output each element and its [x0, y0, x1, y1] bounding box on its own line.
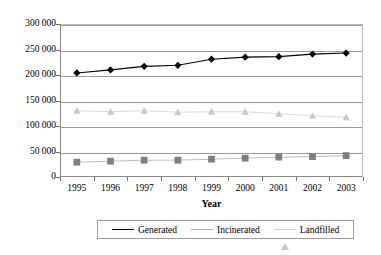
y-axis-tick-mark: [56, 126, 60, 127]
y-axis-tick-mark: [56, 75, 60, 76]
chart-container: 300 000 250 000 200 000 150 000 100 000 …: [0, 0, 381, 255]
legend-key-generated: [112, 225, 134, 235]
legend-item-generated[interactable]: Generated: [112, 225, 177, 235]
x-axis-tick-label: 2003: [326, 183, 366, 194]
gridline-200000: [61, 76, 362, 77]
x-axis-tick-mark: [329, 177, 330, 181]
gridline-150000: [61, 102, 362, 103]
legend-item-landfilled[interactable]: Landfilled: [274, 225, 340, 235]
y-axis-tick-mark: [56, 24, 60, 25]
y-axis-tick-label: 50 000: [0, 147, 56, 157]
x-axis-tick-mark: [363, 177, 364, 181]
legend-label-incinerated: Incinerated: [217, 225, 260, 235]
triangle-icon: [281, 226, 289, 244]
legend-label-landfilled: Landfilled: [300, 225, 340, 235]
x-axis-tick-mark: [228, 177, 229, 181]
chart-legend: Generated Incinerated Landfilled: [97, 220, 354, 239]
x-axis-tick-mark: [60, 177, 61, 181]
y-axis-tick-mark: [56, 50, 60, 51]
x-axis-tick-mark: [127, 177, 128, 181]
x-axis-title: Year: [60, 198, 363, 210]
plot-area: [60, 24, 363, 177]
y-axis-tick-label: 0: [0, 172, 56, 182]
gridline-100000: [61, 127, 362, 128]
x-axis-tick-mark: [195, 177, 196, 181]
y-axis-tick-mark: [56, 152, 60, 153]
x-axis-tick-mark: [296, 177, 297, 181]
y-axis-tick-label: 150 000: [0, 96, 56, 106]
legend-key-landfilled: [274, 225, 296, 235]
legend-label-generated: Generated: [138, 225, 177, 235]
legend-item-incinerated[interactable]: Incinerated: [191, 225, 260, 235]
x-axis-tick-mark: [161, 177, 162, 181]
gridline-50000: [61, 153, 362, 154]
y-axis-tick-label: 300 000: [0, 19, 56, 29]
gridline-300000: [61, 25, 362, 26]
y-axis: 300 000 250 000 200 000 150 000 100 000 …: [0, 0, 56, 255]
y-axis-tick-mark: [56, 101, 60, 102]
y-axis-tick-label: 100 000: [0, 121, 56, 131]
legend-key-incinerated: [191, 225, 213, 235]
gridline-250000: [61, 51, 362, 52]
y-axis-tick-label: 200 000: [0, 70, 56, 80]
x-axis-tick-mark: [262, 177, 263, 181]
y-axis-tick-label: 250 000: [0, 45, 56, 55]
x-axis-tick-mark: [94, 177, 95, 181]
